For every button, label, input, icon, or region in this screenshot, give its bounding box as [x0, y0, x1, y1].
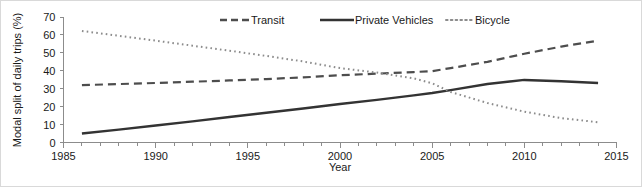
- legend-item-private-vehicles: Private Vehicles: [320, 14, 434, 26]
- y-tick-label: 10: [43, 119, 55, 131]
- y-tick-label: 70: [43, 11, 55, 23]
- series-line-bicycle: [82, 31, 598, 122]
- y-tick-label: 30: [43, 83, 55, 95]
- y-tick-label: 50: [43, 47, 55, 59]
- chart-figure: 010203040506070 198519901995200020052010…: [0, 0, 642, 187]
- x-tick-label: 1990: [143, 150, 167, 162]
- x-tick-label: 2005: [420, 150, 444, 162]
- y-tick-label: 0: [49, 137, 55, 149]
- x-tick-label: 2000: [328, 150, 352, 162]
- line-chart-svg: 010203040506070 198519901995200020052010…: [1, 1, 642, 187]
- y-tick-label: 60: [43, 29, 55, 41]
- x-tick-label: 1995: [236, 150, 260, 162]
- legend-item-transit: Transit: [220, 14, 284, 26]
- legend-label-text: Transit: [251, 14, 284, 26]
- x-tick-label: 2010: [512, 150, 536, 162]
- x-tick-label: 1985: [51, 150, 75, 162]
- data-series-group: [82, 31, 598, 134]
- series-line-transit: [82, 41, 598, 85]
- x-tick-label: 2015: [604, 150, 628, 162]
- y-tick-label: 20: [43, 101, 55, 113]
- legend-label-text: Private Vehicles: [355, 14, 434, 26]
- x-axis-title: Year: [329, 161, 352, 173]
- legend-label-text: Bicycle: [475, 14, 510, 26]
- y-axis-title: Modal split of daily trips (%): [11, 13, 23, 148]
- series-line-private-vehicles: [82, 80, 598, 134]
- y-axis-ticks: 010203040506070: [43, 11, 63, 149]
- legend-item-bicycle: Bicycle: [446, 14, 510, 26]
- y-tick-label: 40: [43, 65, 55, 77]
- x-axis-ticks: 1985199019952000200520102015: [51, 143, 628, 162]
- chart-legend: TransitPrivate VehiclesBicycle: [220, 14, 510, 26]
